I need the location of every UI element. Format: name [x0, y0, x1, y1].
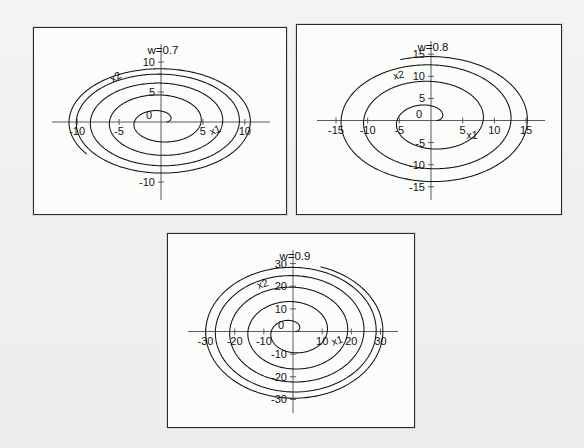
x-axis-name: x1 [467, 129, 478, 141]
trajectory-path [341, 57, 527, 182]
x-tick-label: -5 [114, 125, 124, 137]
y-axis-name: x2 [392, 68, 405, 82]
y-axis-name: x2 [107, 68, 123, 84]
y-tick-label: 5 [419, 92, 425, 104]
y-tick-label: 5 [149, 86, 155, 98]
x-tick-label: 0 [278, 319, 284, 331]
x-tick-label: -20 [227, 335, 243, 347]
plot-panel-w09: -30-20-100102030302010-10-20-30w=0.9x1x2 [167, 233, 415, 428]
phase-plot: -30-20-100102030302010-10-20-30w=0.9x1x2 [168, 234, 414, 427]
x-axis-name: x1 [207, 122, 222, 137]
phase-plot: -10-50510105-10w=0.7x1x2 [34, 28, 286, 214]
plot-panel-w07: -10-50510105-10w=0.7x1x2 [33, 27, 287, 215]
y-tick-label: -10 [139, 176, 155, 188]
panel-title: w=0.9 [278, 250, 310, 262]
panel-title: w=0.8 [416, 41, 448, 53]
y-tick-label: 10 [413, 70, 425, 82]
y-tick-label: 20 [275, 280, 287, 292]
phase-plot: -15-10-505101515105-5-10-15w=0.8x1x2 [297, 25, 561, 214]
x-tick-label: -10 [256, 335, 272, 347]
x-tick-label: 10 [488, 124, 500, 136]
axes-group [188, 250, 398, 413]
trajectory-path [69, 69, 250, 173]
x-tick-label: 5 [460, 124, 466, 136]
y-tick-label: 10 [143, 56, 155, 68]
plot-panel-w08: -15-10-505101515105-5-10-15w=0.8x1x2 [296, 24, 562, 215]
y-tick-label: -15 [409, 181, 425, 193]
x-tick-label: 0 [416, 108, 422, 120]
y-tick-label: -10 [271, 348, 287, 360]
y-tick-label: -30 [271, 393, 287, 405]
x-axis-name: x1 [330, 333, 344, 348]
x-tick-label: 5 [200, 125, 206, 137]
figure-page: -10-50510105-10w=0.7x1x2 -15-10-50510151… [0, 0, 584, 448]
panel-title: w=0.7 [146, 44, 178, 56]
y-tick-label: -10 [409, 159, 425, 171]
y-tick-label: 10 [275, 303, 287, 315]
x-tick-label: -10 [360, 124, 376, 136]
axes-group [52, 44, 270, 200]
